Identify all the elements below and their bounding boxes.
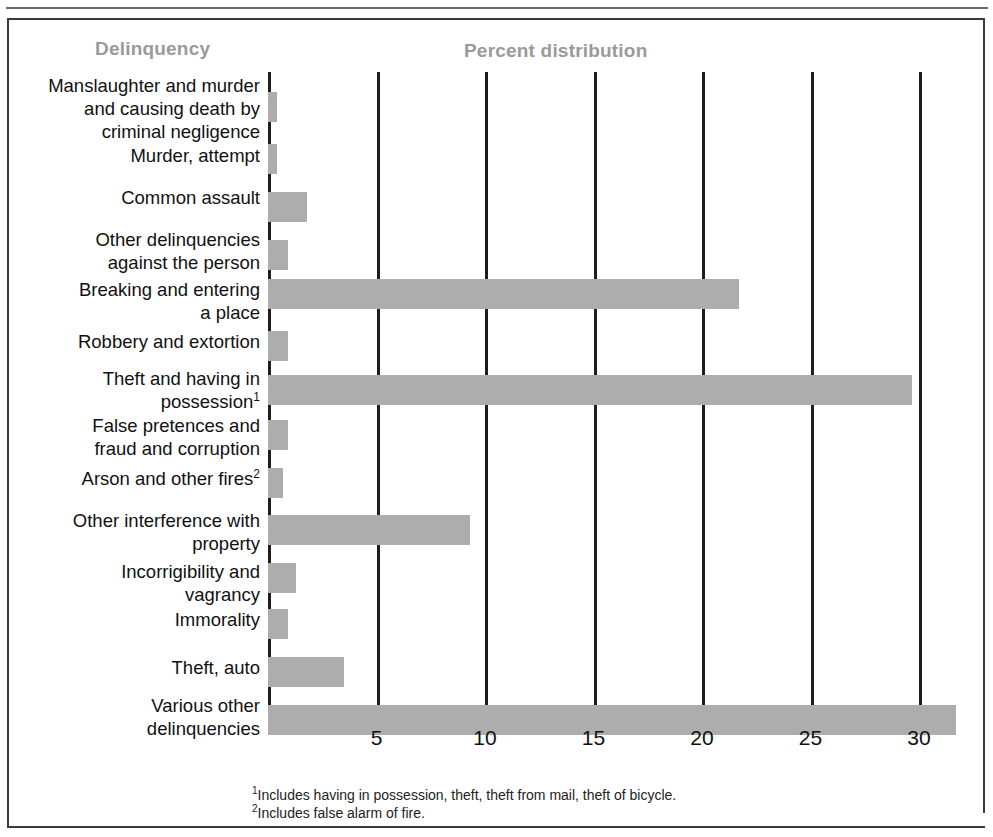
column-header-percent-distribution: Percent distribution — [464, 40, 647, 62]
bar — [268, 609, 288, 639]
category-label: Other delinquencies against the person — [8, 228, 260, 274]
bar — [268, 375, 912, 405]
category-label: Murder, attempt — [8, 144, 260, 167]
top-divider-rule — [6, 7, 988, 9]
bottom-divider-rule — [7, 826, 985, 828]
category-label: Robbery and extortion — [8, 330, 260, 353]
bar — [268, 331, 288, 361]
x-tick-label-25: 25 — [799, 726, 822, 750]
category-label-column: Manslaughter and murder and causing deat… — [8, 60, 260, 722]
category-label: False pretences and fraud and corruption — [8, 414, 260, 460]
x-axis: 51015202530 — [268, 720, 985, 760]
footnote-1-text: Includes having in possession, theft, th… — [258, 787, 677, 803]
category-label: Arson and other fires2 — [8, 467, 260, 490]
bar — [268, 279, 739, 309]
bar — [268, 92, 277, 122]
category-label: Incorrigibility and vagrancy — [8, 560, 260, 606]
bar — [268, 563, 296, 593]
category-label: Breaking and entering a place — [8, 278, 260, 324]
category-label: Theft and having in possession1 — [8, 367, 260, 413]
footnotes-block: 1Includes having in possession, theft, t… — [252, 786, 676, 822]
footnote-2-text: Includes false alarm of fire. — [258, 805, 425, 821]
bar — [268, 420, 288, 450]
plot-area — [268, 72, 985, 720]
category-label: Other interference with property — [8, 509, 260, 555]
column-header-delinquency: Delinquency — [95, 38, 210, 60]
bar — [268, 657, 344, 687]
x-tick-label-30: 30 — [907, 726, 930, 750]
figure-page: Delinquency Percent distribution Manslau… — [0, 0, 993, 837]
category-footnote-marker: 1 — [253, 390, 260, 404]
bar — [268, 515, 470, 545]
category-label: Common assault — [8, 186, 260, 209]
category-label: Immorality — [8, 608, 260, 631]
category-label: Various other delinquencies — [8, 694, 260, 740]
footnote-2: 2Includes false alarm of fire. — [252, 804, 676, 822]
category-footnote-marker: 2 — [253, 467, 260, 481]
bar — [268, 192, 307, 222]
x-tick-label-20: 20 — [690, 726, 713, 750]
category-label: Theft, auto — [8, 656, 260, 679]
footnote-1: 1Includes having in possession, theft, t… — [252, 786, 676, 804]
bar — [268, 468, 283, 498]
x-tick-label-15: 15 — [582, 726, 605, 750]
bar — [268, 240, 288, 270]
bar-series — [268, 72, 985, 720]
category-label: Manslaughter and murder and causing deat… — [8, 74, 260, 143]
bar — [268, 144, 277, 174]
x-tick-label-10: 10 — [473, 726, 496, 750]
x-tick-label-5: 5 — [371, 726, 383, 750]
